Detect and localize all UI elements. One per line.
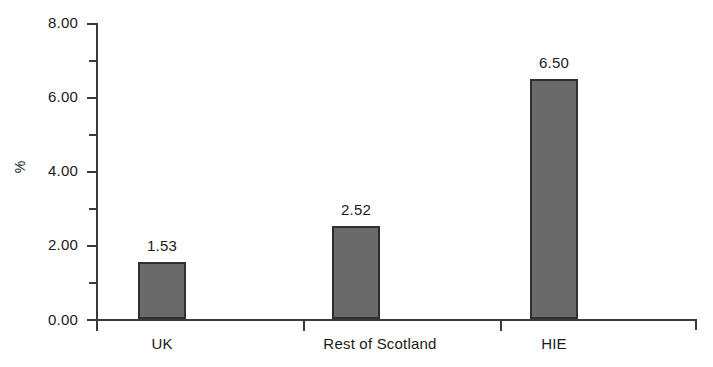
- x-axis-line: [96, 319, 697, 321]
- x-tick-boundary: [500, 321, 502, 331]
- bar-value-label: 6.50: [514, 55, 594, 70]
- y-tick-label: 4.00: [16, 163, 78, 178]
- bar-rest-of-scotland[interactable]: [332, 226, 380, 319]
- y-tick-label-group: 8.00: [16, 15, 78, 30]
- bar-uk[interactable]: [138, 262, 186, 319]
- x-category-label-uk: UK: [122, 336, 202, 352]
- x-axis-right-cap: [695, 319, 697, 330]
- bar-value-label: 2.52: [316, 202, 396, 217]
- y-tick-label-group: 6.00: [16, 89, 78, 104]
- bar-chart: % 8.00 6.00 4.00 2.00 0.00 1.53 2.52 6.5…: [0, 0, 713, 367]
- y-tick-label-group: 4.00: [16, 163, 78, 178]
- bar-hie[interactable]: [530, 79, 578, 320]
- x-category-label-rest-of-scotland: Rest of Scotland: [296, 336, 464, 352]
- y-axis-line: [96, 23, 98, 321]
- y-tick-label: 0.00: [16, 312, 78, 327]
- x-tick-boundary: [303, 321, 305, 331]
- bar-value-label: 1.53: [122, 238, 202, 253]
- x-tick-boundary: [96, 321, 98, 331]
- x-category-label-hie: HIE: [514, 336, 594, 352]
- y-tick-label: 2.00: [16, 237, 78, 252]
- y-tick-label: 8.00: [16, 15, 78, 30]
- y-tick-label-group: 2.00: [16, 237, 78, 252]
- y-tick-label: 6.00: [16, 89, 78, 104]
- y-tick-label-group: 0.00: [16, 312, 78, 327]
